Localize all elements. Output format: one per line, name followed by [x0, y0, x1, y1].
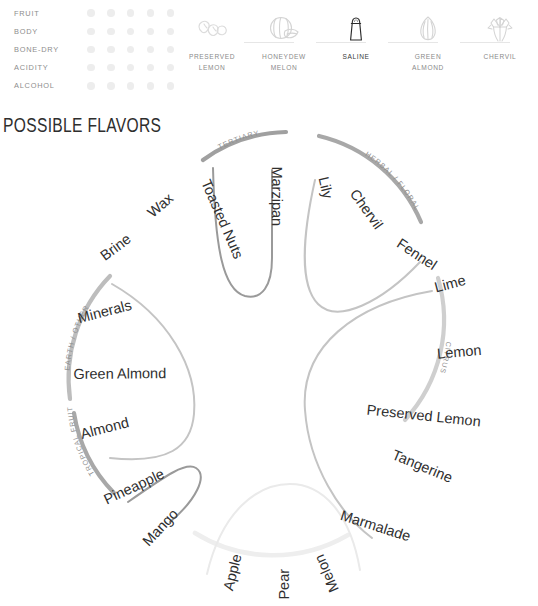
rating-dot[interactable] — [87, 9, 95, 17]
flavor-label-lily[interactable]: Lily — [316, 175, 337, 201]
saline-salt-shaker-icon — [320, 8, 392, 50]
flavor-label-apple[interactable]: Apple — [220, 552, 245, 592]
rating-dot[interactable] — [127, 46, 135, 54]
rating-dot[interactable] — [147, 64, 155, 72]
rating-dot[interactable] — [127, 28, 135, 36]
chervil-icon — [464, 8, 536, 50]
attribute-rating-dots[interactable] — [87, 9, 174, 17]
attribute-row-body: BODY — [14, 22, 174, 40]
flavor-label-wax[interactable]: Wax — [144, 189, 177, 220]
rating-dot[interactable] — [167, 82, 175, 90]
rating-dot[interactable] — [147, 82, 155, 90]
rating-dot[interactable] — [127, 82, 135, 90]
attribute-list: FRUIT BODY BONE-DRY ACIDITY ALCOHOL — [14, 4, 174, 95]
attribute-rating-dots[interactable] — [87, 46, 174, 54]
preserved-lemon-icon — [176, 8, 248, 50]
attribute-rating-dots[interactable] — [87, 28, 174, 36]
rating-dot[interactable] — [87, 46, 95, 54]
tasting-note-label: SALINE — [320, 52, 392, 63]
attribute-row-alcohol: ALCOHOL — [14, 77, 174, 95]
attribute-row-bone-dry: BONE-DRY — [14, 40, 174, 58]
rating-dot[interactable] — [167, 46, 175, 54]
flavor-label-preserved-lemon[interactable]: Preserved Lemon — [366, 402, 482, 430]
rating-dot[interactable] — [127, 9, 135, 17]
attribute-label: BONE-DRY — [14, 45, 77, 54]
tasting-note-honeydew-melon[interactable]: HONEYDEWMELON — [248, 8, 320, 73]
rating-dot[interactable] — [107, 9, 115, 17]
flavor-label-chervil[interactable]: Chervil — [347, 186, 386, 232]
rating-dot[interactable] — [167, 64, 175, 72]
attribute-row-acidity: ACIDITY — [14, 59, 174, 77]
rating-dot[interactable] — [127, 64, 135, 72]
rating-dot[interactable] — [147, 9, 155, 17]
flavor-label-fennel[interactable]: Fennel — [394, 235, 440, 273]
rating-dot[interactable] — [107, 82, 115, 90]
attribute-label: ALCOHOL — [14, 81, 77, 90]
flavor-label-minerals[interactable]: Minerals — [76, 297, 133, 326]
flavor-label-melon[interactable]: Melon — [311, 552, 341, 595]
tasting-note-label: GREENALMOND — [392, 52, 464, 73]
rating-dot[interactable] — [107, 64, 115, 72]
rating-dot[interactable] — [87, 82, 95, 90]
rating-dot[interactable] — [167, 9, 175, 17]
tasting-notes-strip: PRESERVEDLEMON HONEYDEWMELON — [176, 8, 532, 92]
rating-dot[interactable] — [87, 64, 95, 72]
tasting-note-green-almond[interactable]: GREENALMOND — [392, 8, 464, 73]
rating-dot[interactable] — [147, 28, 155, 36]
tasting-note-preserved-lemon[interactable]: PRESERVEDLEMON — [176, 8, 248, 73]
flavor-label-toasted-nuts[interactable]: Toasted Nuts — [198, 177, 246, 261]
flavor-label-almond[interactable]: Almond — [79, 414, 131, 442]
attribute-row-fruit: FRUIT — [14, 4, 174, 22]
flavor-label-pear[interactable]: Pear — [276, 569, 292, 600]
tasting-note-label: CHERVIL — [464, 52, 536, 63]
flavor-label-lime[interactable]: Lime — [433, 272, 468, 295]
flavor-profile-page: FRUIT BODY BONE-DRY ACIDITY ALCOHOL — [0, 0, 538, 606]
honeydew-melon-icon — [248, 8, 320, 50]
category-label-tropical-fruit: TROPICAL FRUIT — [66, 406, 96, 477]
rating-dot[interactable] — [107, 28, 115, 36]
attribute-label: BODY — [14, 27, 77, 36]
flavor-label-green-almond[interactable]: Green Almond — [73, 365, 166, 382]
tasting-note-saline[interactable]: SALINE — [320, 8, 392, 63]
rating-dot[interactable] — [87, 28, 95, 36]
tasting-note-label: PRESERVEDLEMON — [176, 52, 248, 73]
flavor-wheel: TERTIARY HERBAL / FLORAL CITRUS TROPICAL… — [0, 118, 538, 606]
flavor-label-mango[interactable]: Mango — [139, 506, 181, 549]
attribute-label: FRUIT — [14, 9, 77, 18]
arc-orchard — [195, 533, 348, 555]
attribute-rating-dots[interactable] — [87, 82, 174, 90]
flavor-label-marmalade[interactable]: Marmalade — [339, 507, 413, 544]
tasting-note-label: HONEYDEWMELON — [248, 52, 320, 73]
attribute-rating-dots[interactable] — [87, 64, 174, 72]
rating-dot[interactable] — [167, 28, 175, 36]
attribute-label: ACIDITY — [14, 63, 77, 72]
flavor-label-tangerine[interactable]: Tangerine — [390, 446, 455, 485]
green-almond-icon — [392, 8, 464, 50]
category-label-tertiary: TERTIARY — [217, 129, 260, 151]
tasting-note-chervil[interactable]: CHERVIL — [464, 8, 536, 63]
rating-dot[interactable] — [147, 46, 155, 54]
flavor-label-marzipan[interactable]: Marzipan — [269, 166, 285, 226]
flavor-label-brine[interactable]: Brine — [97, 231, 134, 264]
flavor-label-pineapple[interactable]: Pineapple — [101, 466, 166, 508]
rating-dot[interactable] — [107, 46, 115, 54]
